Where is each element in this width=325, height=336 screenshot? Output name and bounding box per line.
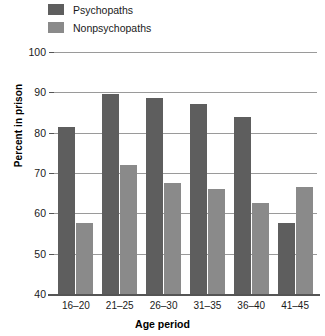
x-axis-line <box>48 294 320 296</box>
y-tick-label: 80 <box>14 128 46 138</box>
bar-nonpsychopaths-21–25 <box>120 165 137 294</box>
y-tick-label: 40 <box>14 289 46 299</box>
plot-area: Percent in prison 405060708090100 16–202… <box>0 0 325 336</box>
x-tick-label: 41–45 <box>265 300 325 311</box>
bar-psychopaths-41–45 <box>278 223 295 294</box>
bar-chart: Psychopaths Nonpsychopaths Percent in pr… <box>0 0 325 336</box>
bar-nonpsychopaths-31–35 <box>208 189 225 294</box>
y-tick-label: 90 <box>14 87 46 97</box>
gridline <box>54 173 317 174</box>
bar-psychopaths-16–20 <box>58 127 75 294</box>
bar-nonpsychopaths-41–45 <box>296 187 313 294</box>
x-axis-title: Age period <box>0 318 325 330</box>
bar-psychopaths-36–40 <box>234 117 251 294</box>
y-tick-label: 50 <box>14 249 46 259</box>
bar-psychopaths-21–25 <box>102 94 119 294</box>
y-tick-label: 60 <box>14 208 46 218</box>
bar-nonpsychopaths-26–30 <box>164 183 181 294</box>
bar-psychopaths-26–30 <box>146 98 163 294</box>
gridline <box>54 52 317 53</box>
y-tick-label: 70 <box>14 168 46 178</box>
gridline <box>54 92 317 93</box>
gridline <box>54 213 317 214</box>
bar-psychopaths-31–35 <box>190 104 207 294</box>
gridline <box>54 133 317 134</box>
bar-nonpsychopaths-16–20 <box>76 223 93 294</box>
y-tick-label: 100 <box>14 47 46 57</box>
bar-nonpsychopaths-36–40 <box>252 203 269 294</box>
